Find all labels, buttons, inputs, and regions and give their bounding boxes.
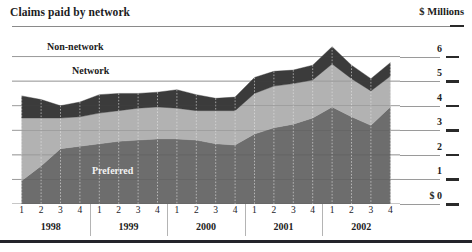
series-label-preferred: Preferred: [92, 165, 133, 176]
y-axis-tick-line: [400, 204, 440, 205]
y-axis-tick-label: 4: [400, 92, 442, 103]
y-axis-tick-cap: [446, 178, 459, 181]
x-axis-quarter-label: 1: [322, 205, 341, 215]
value-axis: $ 0123456: [400, 32, 466, 210]
x-axis-quarter-label: 3: [128, 205, 147, 215]
x-axis-quarter-label: 4: [225, 205, 244, 215]
y-axis-tick-cap: [446, 105, 459, 108]
y-axis-tick-line: [400, 130, 440, 131]
y-axis-tick-line: [400, 179, 440, 180]
chart-container: Claims paid by network $ Millions $ 0123…: [0, 0, 472, 252]
x-axis-year-label: 1999: [90, 221, 168, 232]
x-axis-quarter-label: 4: [70, 205, 89, 215]
x-axis-quarter-label: 2: [264, 205, 283, 215]
x-axis-quarter-label: 4: [303, 205, 322, 215]
x-axis-quarter-label: 3: [361, 205, 380, 215]
x-axis-year-label: 1998: [12, 221, 90, 232]
header-divider-cap: [450, 25, 464, 28]
x-axis-quarter-label: 2: [109, 205, 128, 215]
x-axis-quarter-label: 2: [187, 205, 206, 215]
x-axis-quarter-label: 2: [31, 205, 50, 215]
x-axis-quarter-label: 1: [12, 205, 31, 215]
x-axis-quarter-label: 3: [51, 205, 70, 215]
series-label-network: Network: [72, 65, 109, 76]
y-axis-tick-label: 2: [400, 141, 442, 152]
y-axis-tick-line: [400, 81, 440, 82]
header-divider: [12, 26, 464, 27]
x-axis-quarter-label: 1: [90, 205, 109, 215]
chart-header: Claims paid by network $ Millions: [0, 6, 472, 26]
y-axis-tick-label: 1: [400, 165, 442, 176]
page-title: Claims paid by network: [10, 6, 130, 18]
y-axis-tick-line: [400, 155, 440, 156]
x-axis-quarter-label: 4: [381, 205, 400, 215]
y-axis-tick-cap: [446, 129, 459, 132]
axis-unit-label: $ Millions: [419, 6, 464, 17]
x-axis-quarter-label: 2: [342, 205, 361, 215]
y-axis-tick-cap: [446, 80, 459, 83]
y-axis-tick-label: $ 0: [400, 190, 442, 201]
y-axis-tick-cap: [446, 154, 459, 157]
category-axis: 1234123412341234123419981999200020012002: [12, 205, 400, 239]
x-axis-year-label: 2001: [245, 221, 323, 232]
y-axis-tick-line: [400, 106, 440, 107]
x-axis-quarter-label: 1: [245, 205, 264, 215]
y-axis-tick-cap: [446, 203, 459, 206]
x-axis-quarter-label: 1: [167, 205, 186, 215]
x-axis-quarter-label: 3: [206, 205, 225, 215]
plot-area: [12, 32, 400, 204]
x-axis-quarter-label: 3: [284, 205, 303, 215]
y-axis-tick-label: 5: [400, 67, 442, 78]
y-axis-tick-label: 6: [400, 43, 442, 54]
y-axis-tick-label: 3: [400, 116, 442, 127]
x-axis-quarter-label: 4: [148, 205, 167, 215]
y-axis-tick-cap: [446, 56, 459, 59]
series-label-non-network: Non-network: [47, 41, 104, 52]
x-axis-year-label: 2002: [322, 221, 400, 232]
stacked-area-plot: [12, 32, 400, 204]
x-axis-year-label: 2000: [167, 221, 245, 232]
y-axis-tick-line: [400, 57, 440, 58]
footer-divider: [0, 240, 472, 243]
